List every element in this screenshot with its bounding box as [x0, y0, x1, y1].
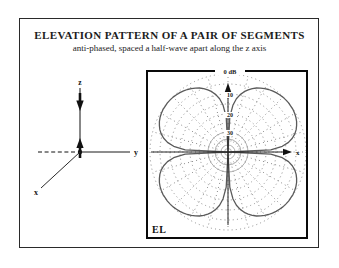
- elevation-plot-tag: EL: [152, 225, 166, 235]
- down-arrow-icon: [76, 101, 83, 112]
- radial-grid-line: [234, 162, 268, 220]
- figure-subtitle: anti-phased, spaced a half-wave apart al…: [20, 43, 319, 53]
- figure-title: ELEVATION PATTERN OF A PAIR OF SEGMENTS: [20, 29, 319, 41]
- x-axis-label: x: [34, 188, 38, 197]
- radial-grid-line: [234, 84, 268, 142]
- z-axis-label: z: [78, 78, 82, 87]
- x-axis-line: [41, 152, 80, 188]
- polar-x-axis-label: x: [296, 149, 300, 157]
- figure-page: ELEVATION PATTERN OF A PAIR OF SEGMENTS …: [0, 0, 339, 268]
- coordinate-axes-diagram: z y x: [28, 74, 143, 199]
- radial-grid-line: [236, 160, 283, 207]
- polar-plot-panel: x 0 dB 10 20 30 EL: [146, 70, 308, 239]
- y-axis-label: y: [134, 148, 138, 157]
- radial-grid-line: [239, 132, 304, 149]
- up-arrow-icon: [225, 83, 231, 92]
- up-arrow-icon: [76, 138, 83, 148]
- radial-grid-line: [160, 158, 218, 192]
- radial-grid-line: [236, 97, 283, 144]
- right-arrow-icon: [283, 149, 292, 155]
- radial-grid-line: [239, 155, 304, 172]
- radial-grid-line: [208, 77, 225, 142]
- ring-label-20db: 20: [224, 112, 236, 118]
- radial-grid-line: [153, 155, 218, 172]
- radial-grid-line: [173, 97, 220, 144]
- radial-grid-line: [208, 163, 225, 228]
- radial-grid-line: [160, 113, 218, 147]
- radial-grid-line: [189, 84, 223, 142]
- radial-grid-line: [189, 162, 223, 220]
- ring-label-10db: 10: [224, 92, 236, 98]
- radial-grid-line: [173, 160, 220, 207]
- ring-label-30db: 30: [224, 130, 236, 136]
- zero-db-scale-label: 0 dB: [215, 68, 245, 75]
